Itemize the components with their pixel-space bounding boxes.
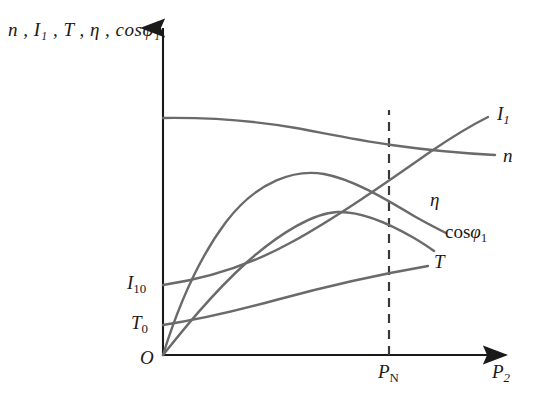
no-load-current-sub: 10 <box>133 281 146 296</box>
no-load-current-intercept-label: I10 <box>127 273 146 292</box>
rated-power-label: PN <box>378 362 399 381</box>
curve-label-cos-phi1-sub: 1 <box>481 230 487 245</box>
curve-label-cos-phi1: cosφ1 <box>445 222 487 241</box>
rated-power-label-sub: N <box>390 370 399 385</box>
no-load-torque-main: T <box>131 312 142 333</box>
origin-label: O <box>140 348 154 367</box>
curve-label-phi: φ <box>470 221 481 242</box>
no-load-torque-sub: 0 <box>142 321 148 336</box>
curve-label-n: n <box>503 146 513 165</box>
no-load-torque-intercept-label: T0 <box>131 313 148 332</box>
y-axis-label: n , I₁ , T , η , cosφ₁ <box>8 20 161 39</box>
curve-label-t: T <box>434 252 445 271</box>
curve-eta <box>163 173 446 355</box>
curve-cos-phi1 <box>163 212 434 355</box>
curve-n <box>163 118 495 155</box>
figure-canvas: n , I₁ , T , η , cosφ₁ P2 PN I10 T0 O I1… <box>0 0 538 406</box>
x-axis-label-sub: 2 <box>504 370 510 385</box>
curve-label-i1-sub: 1 <box>503 112 509 127</box>
x-axis-label: P2 <box>492 362 510 381</box>
curve-label-eta-main: η <box>430 189 439 210</box>
rated-power-label-main: P <box>378 361 390 382</box>
curve-label-n-main: n <box>503 145 513 166</box>
curve-label-t-main: T <box>434 251 445 272</box>
curve-label-cos-prefix: cos <box>445 221 470 242</box>
x-axis-label-main: P <box>492 361 504 382</box>
characteristic-curves-plot <box>0 0 538 406</box>
curve-label-eta: η <box>430 190 439 209</box>
curve-label-i1: I1 <box>497 104 510 123</box>
